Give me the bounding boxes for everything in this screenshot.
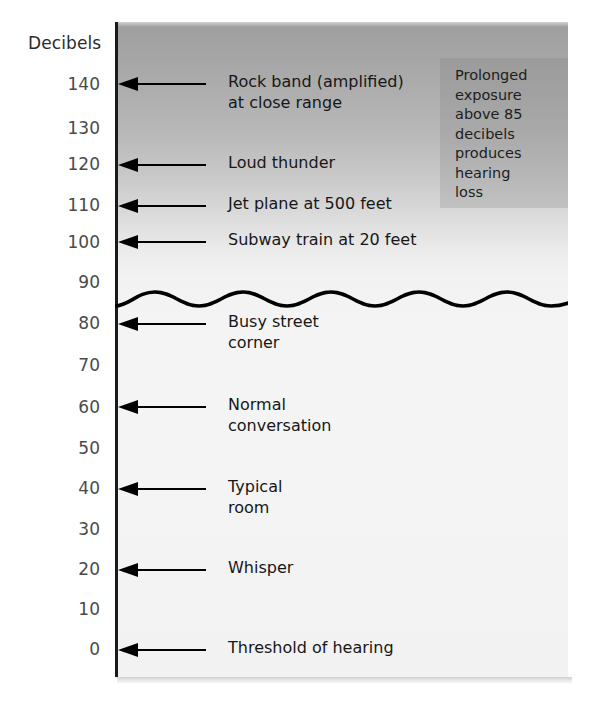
- warning-note-box: Prolonged exposure above 85 decibels pro…: [440, 58, 568, 208]
- arrow-head-icon: [118, 158, 138, 172]
- source-label-120db: Loud thunder: [228, 152, 335, 173]
- source-label-80db: Busy street corner: [228, 311, 319, 353]
- source-label-40db: Typical room: [228, 476, 282, 518]
- arrow-head-icon: [118, 317, 138, 331]
- arrow-head-icon: [118, 77, 138, 91]
- pointer-arrow-120db: [118, 157, 206, 173]
- warning-note-text: Prolonged exposure above 85 decibels pro…: [455, 66, 568, 203]
- wavy-threshold-line: [115, 284, 568, 316]
- pointer-arrow-100db: [118, 234, 206, 250]
- axis-tick-140: 140: [38, 75, 100, 93]
- arrow-head-icon: [118, 235, 138, 249]
- axis-tick-60: 60: [38, 398, 100, 416]
- axis-tick-30: 30: [38, 520, 100, 538]
- vertical-axis-line: [115, 22, 118, 677]
- axis-tick-100: 100: [38, 233, 100, 251]
- arrow-shaft: [136, 241, 206, 243]
- arrow-head-icon: [118, 643, 138, 657]
- arrow-head-icon: [118, 482, 138, 496]
- pointer-arrow-20db: [118, 562, 206, 578]
- axis-tick-20: 20: [38, 560, 100, 578]
- arrow-shaft: [136, 205, 206, 207]
- source-label-140db: Rock band (amplified) at close range: [228, 71, 404, 113]
- arrow-shaft: [136, 406, 206, 408]
- axis-tick-70: 70: [38, 356, 100, 374]
- axis-tick-50: 50: [38, 439, 100, 457]
- pointer-arrow-140db: [118, 76, 206, 92]
- pointer-arrow-60db: [118, 399, 206, 415]
- arrow-shaft: [136, 488, 206, 490]
- axis-tick-80: 80: [38, 314, 100, 332]
- source-label-100db: Subway train at 20 feet: [228, 229, 416, 250]
- source-label-110db: Jet plane at 500 feet: [228, 193, 392, 214]
- source-label-20db: Whisper: [228, 557, 293, 578]
- axis-tick-40: 40: [38, 479, 100, 497]
- arrow-shaft: [136, 649, 206, 651]
- arrow-shaft: [136, 164, 206, 166]
- arrow-shaft: [136, 83, 206, 85]
- arrow-head-icon: [118, 563, 138, 577]
- source-label-0db: Threshold of hearing: [228, 637, 394, 658]
- axis-tick-10: 10: [38, 600, 100, 618]
- axis-tick-110: 110: [38, 196, 100, 214]
- arrow-shaft: [136, 323, 206, 325]
- panel-top-highlight: [115, 22, 568, 27]
- axis-tick-90: 90: [38, 273, 100, 291]
- pointer-arrow-40db: [118, 481, 206, 497]
- decibel-scale-figure: Decibels 1401301201101009080706050403020…: [0, 0, 598, 716]
- axis-tick-0: 0: [38, 640, 100, 658]
- arrow-head-icon: [118, 400, 138, 414]
- arrow-shaft: [136, 569, 206, 571]
- panel-drop-shadow: [117, 677, 572, 683]
- arrow-head-icon: [118, 199, 138, 213]
- pointer-arrow-80db: [118, 316, 206, 332]
- axis-tick-130: 130: [38, 119, 100, 137]
- axis-tick-labels: 1401301201101009080706050403020100: [38, 0, 100, 716]
- pointer-arrow-110db: [118, 198, 206, 214]
- axis-tick-120: 120: [38, 155, 100, 173]
- source-label-60db: Normal conversation: [228, 394, 331, 436]
- pointer-arrow-0db: [118, 642, 206, 658]
